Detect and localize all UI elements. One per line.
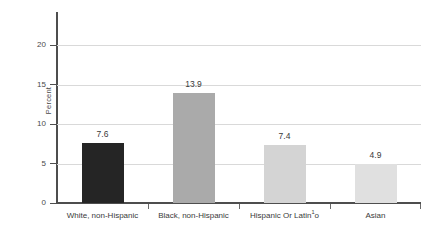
x-category-label: Black, non-Hispanic <box>148 212 239 220</box>
gridline-20 <box>57 45 421 46</box>
y-tick-15 <box>50 84 57 85</box>
bar-value-label: 7.6 <box>73 130 133 139</box>
y-axis-title: Percent <box>44 61 53 141</box>
x-category-label: White, non-Hispanic <box>57 212 148 220</box>
y-tick-20 <box>50 45 57 46</box>
x-tick-1 <box>148 204 149 209</box>
y-tick-label: 0 <box>16 199 46 207</box>
bar-value-label: 4.9 <box>346 151 406 160</box>
x-tick-3 <box>330 204 331 209</box>
bar-value-label: 7.4 <box>255 132 315 141</box>
gridline-10 <box>57 124 421 125</box>
y-tick-label: 15 <box>16 81 46 89</box>
x-tick-end <box>420 204 421 209</box>
bar <box>82 143 124 203</box>
bar <box>173 93 215 203</box>
y-tick-label: 20 <box>16 41 46 49</box>
y-tick-label: 10 <box>16 120 46 128</box>
y-tick-5 <box>50 163 57 164</box>
category-label-text: Hispanic Or Latin <box>250 211 311 220</box>
x-tick-2 <box>239 204 240 209</box>
y-tick-label: 5 <box>16 160 46 168</box>
bar-value-label: 13.9 <box>164 80 224 89</box>
gridline-15 <box>57 85 421 86</box>
x-category-label: Hispanic Or Latin1o <box>239 212 330 220</box>
bar <box>355 164 397 203</box>
x-category-label: Asian <box>330 212 421 220</box>
bar-chart: Percent 20151050 7.6White, non-Hispanic1… <box>0 0 438 240</box>
y-tick-10 <box>50 124 57 125</box>
bar <box>264 145 306 203</box>
y-tick-0 <box>50 203 57 204</box>
y-axis-line <box>56 12 58 204</box>
category-label-text-tail: o <box>315 211 319 220</box>
